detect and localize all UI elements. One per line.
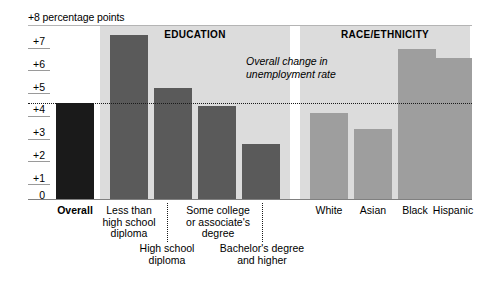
y-axis-tick-6: +6: [0, 59, 48, 69]
panel-title-race: RACE/ETHNICITY: [300, 29, 470, 40]
cat-bachelor-line1: Bachelor's degree: [206, 243, 318, 255]
y-axis-tick-2: +2: [0, 150, 48, 160]
y-axis-tick-5: +5: [0, 82, 48, 92]
y-axis-tick-0: 0: [0, 190, 48, 200]
y-axis-rule-5: [28, 93, 50, 94]
category-label-less-than-high-school: Less than high school diploma: [99, 205, 159, 240]
y-axis-tick-4: +4: [0, 104, 48, 114]
bar-black[interactable]: [398, 49, 436, 199]
y-axis-tick-label-5: +5: [33, 82, 48, 92]
reference-line-annotation: Overall change in unemployment rate: [246, 55, 336, 80]
cat-hs-line1: High school: [123, 243, 211, 255]
y-axis-rule-1: [28, 184, 50, 185]
y-axis-tick-label-7: +7: [33, 36, 48, 46]
bar-asian[interactable]: [354, 129, 392, 200]
y-axis-tick-label-1: +1: [33, 173, 48, 183]
bar-high-school-diploma[interactable]: [154, 88, 192, 200]
bar-hispanic[interactable]: [436, 58, 472, 199]
cat-less-hs-line1: Less than: [99, 205, 159, 217]
bar-bachelors-degree[interactable]: [242, 144, 280, 199]
reference-line-overall: [28, 103, 472, 104]
category-label-high-school-diploma: High school diploma: [123, 243, 211, 266]
leader-line-bachelors-degree: [262, 203, 263, 242]
category-label-bachelors-degree: Bachelor's degree and higher: [206, 243, 318, 266]
category-label-some-college: Some college or associate's degree: [173, 205, 263, 240]
leader-line-high-school-diploma: [167, 203, 168, 242]
unemployment-change-bar-chart: +8 percentage points +7 +6 +5 +4 +3 +2 +…: [0, 0, 480, 300]
bar-white[interactable]: [310, 113, 348, 200]
bar-less-than-high-school[interactable]: [110, 35, 148, 199]
reference-line-annotation-line2: unemployment rate: [246, 68, 336, 81]
y-axis-tick-label-4: +4: [33, 104, 48, 114]
cat-less-hs-line3: diploma: [99, 228, 159, 240]
y-axis-tick-label-3: +3: [33, 127, 48, 137]
y-axis-rule-4: [28, 116, 50, 117]
y-axis-tick-1: +1: [0, 173, 48, 183]
cat-hs-line2: diploma: [123, 255, 211, 267]
reference-line-annotation-line1: Overall change in: [246, 55, 336, 68]
y-axis-rule-7: [28, 48, 50, 49]
x-axis-baseline: [28, 199, 472, 200]
bar-overall[interactable]: [56, 103, 94, 199]
category-label-hispanic: Hispanic: [427, 205, 479, 217]
panel-title-education: EDUCATION: [100, 29, 290, 40]
y-axis-tick-7: +7: [0, 36, 48, 46]
y-axis-rule-6: [28, 70, 50, 71]
y-axis-rule-3: [28, 139, 50, 140]
y-axis-tick-3: +3: [0, 127, 48, 137]
cat-some-college-line1: Some college: [173, 205, 263, 217]
y-axis-rule-2: [28, 161, 50, 162]
y-axis-tick-label-2: +2: [33, 150, 48, 160]
y-axis-tick-label-6: +6: [33, 59, 48, 69]
cat-bachelor-line2: and higher: [206, 255, 318, 267]
bar-some-college[interactable]: [198, 106, 236, 199]
y-axis-rule-8: [28, 25, 472, 26]
cat-some-college-line3: degree: [173, 228, 263, 240]
y-axis-tick-label-0: 0: [39, 190, 48, 200]
y-axis-top-label: +8 percentage points: [28, 11, 124, 23]
